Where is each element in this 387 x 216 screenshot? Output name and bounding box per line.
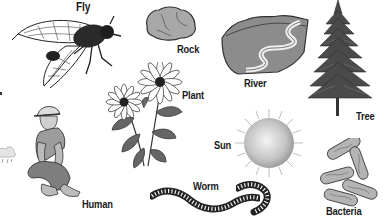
cloud-image xyxy=(0,143,16,165)
worm-label: Worm xyxy=(193,180,219,192)
plant-label: Plant xyxy=(182,89,204,101)
bacteria-label: Bacteria xyxy=(326,205,362,216)
rock-image xyxy=(143,4,199,42)
tree-label: Tree xyxy=(356,110,375,122)
human-image xyxy=(24,102,86,202)
tree-image xyxy=(304,0,374,118)
river-label: River xyxy=(244,77,267,89)
small-mark xyxy=(0,92,2,95)
sun-label: Sun xyxy=(214,139,231,151)
bacteria-image xyxy=(318,138,384,208)
living-nonliving-diagram: Fly Rock River Tree xyxy=(0,0,387,216)
sun-image xyxy=(234,108,304,178)
rock-label: Rock xyxy=(177,43,199,55)
fly-label: Fly xyxy=(76,0,90,14)
worm-tail-image xyxy=(236,180,276,216)
human-label: Human xyxy=(82,198,113,210)
river-image xyxy=(218,12,310,76)
plant-image xyxy=(104,62,186,170)
